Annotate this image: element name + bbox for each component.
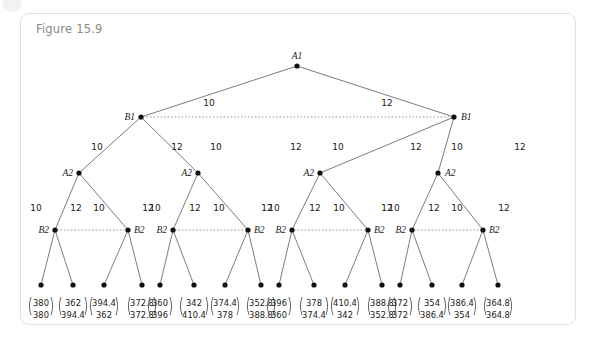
node-label-b2-5: B2 [275,225,286,235]
node-label-b2-1: B2 [38,225,49,235]
leaf-value-top: 410.4 [333,298,357,308]
edge-label-lvl1-right: 12 [381,98,392,108]
node-label-b2-6: B2 [374,225,385,235]
leaf-value-top: 386.4 [450,298,474,308]
edge-b2-6-leaf-11 [345,230,368,285]
leaf-dot-15[interactable] [459,282,464,287]
node-label-b2-2: B2 [134,225,145,235]
node-b2-3-dot[interactable] [170,227,175,232]
node-a2-2-dot[interactable] [195,170,200,175]
leaf-value-top: 342 [186,298,202,308]
decorative-corner-circle [2,0,22,12]
leaf-value-bottom: 352.8 [370,310,394,320]
leaf-value-top: 352.8 [249,298,273,308]
leaf-dot-3[interactable] [101,282,106,287]
leaf-dot-16[interactable] [495,282,500,287]
edge-label-lvl2-2l: 10 [210,142,222,152]
edge-label-lvl3-8r: 12 [498,203,509,213]
edge-label-lvl3-1l: 10 [30,203,42,213]
edge-b2-3-leaf-5 [160,230,173,285]
node-a2-3-dot[interactable] [317,170,322,175]
edges-level-4 [41,230,498,285]
edges-level-2 [79,117,454,173]
leaf-value-vector: 354386.4 [418,297,445,320]
node-label-b1-left: B1 [124,112,135,122]
decision-tree-diagram: 10 12 10 12 10 12 10 12 10 12 10 12 10 1… [20,13,576,325]
edge-label-lvl2-1l: 10 [91,142,103,152]
edge-b2-8-leaf-15 [462,230,483,285]
node-a2-1-dot[interactable] [76,170,81,175]
vector-bracket-right [474,297,476,315]
node-a1-dot[interactable] [294,63,299,68]
edge-labels: 10 12 10 12 10 12 10 12 10 12 10 12 10 1… [30,98,525,213]
leaf-value-top: 378 [306,298,322,308]
edge-b1left-a2-2 [141,117,198,173]
leaf-dot-6[interactable] [191,282,196,287]
leaf-dot-4[interactable] [139,282,144,287]
node-b2-7-dot[interactable] [409,227,414,232]
edge-b1left-a2-1 [79,117,141,173]
node-b2-6-dot[interactable] [365,227,370,232]
leaf-dot-5[interactable] [157,282,162,287]
leaf-value-bottom: 360 [271,310,287,320]
leaf-value-bottom: 396 [152,310,168,320]
vector-bracket-right [326,297,328,315]
node-label-b2-3: B2 [156,225,167,235]
edge-b2-1-leaf-2 [55,230,73,285]
edge-a2-3-b2-5 [292,173,320,230]
edge-a2-4-b2-7 [412,173,438,230]
figure-container: Figure 15.9 [0,0,601,341]
leaf-dot-9[interactable] [276,282,281,287]
leaf-value-bottom: 372.8 [130,310,154,320]
edge-label-lvl2-4l: 10 [451,142,463,152]
leaf-value-bottom: 388.8 [249,310,273,320]
vector-bracket-right [116,297,118,315]
leaf-value-bottom: 410.4 [182,310,206,320]
node-label-a2-2: A2 [180,168,192,178]
node-b1-left-dot[interactable] [138,114,143,119]
node-b2-5-dot[interactable] [289,227,294,232]
node-b2-4-dot[interactable] [245,227,250,232]
leaf-value-bottom: 374.4 [302,310,326,320]
node-b1-right-dot[interactable] [451,114,456,119]
leaf-dot-13[interactable] [397,282,402,287]
edge-label-lvl3-8l: 10 [451,203,463,213]
node-a2-4-dot[interactable] [435,170,440,175]
node-b2-1-dot[interactable] [52,227,57,232]
vector-bracket-right [510,297,512,315]
edge-label-lvl3-4l: 10 [213,203,225,213]
edge-b2-2-leaf-4 [128,230,142,285]
node-b2-2-dot[interactable] [125,227,130,232]
vector-bracket-right [357,297,359,315]
vector-bracket-right [51,297,53,315]
edge-b2-5-leaf-9 [279,230,292,285]
edge-label-lvl1-left: 10 [203,98,215,108]
leaf-value-vector: 372372 [388,297,411,320]
node-label-a2-3: A2 [302,168,314,178]
edge-b2-7-leaf-13 [400,230,412,285]
node-label-b2-7: B2 [395,225,406,235]
leaf-dot-8[interactable] [258,282,263,287]
edge-label-lvl2-4r: 12 [514,142,525,152]
leaf-value-top: 380 [33,298,49,308]
leaf-dot-10[interactable] [311,282,316,287]
edge-label-lvl3-7r: 12 [428,203,439,213]
leaf-node-dots [38,282,500,287]
leaf-value-vector: 410.4342 [331,297,358,320]
leaf-dot-12[interactable] [379,282,384,287]
leaf-dot-14[interactable] [429,282,434,287]
leaf-value-vector: 378374.4 [300,297,327,320]
edges-level-3 [55,173,483,230]
leaf-value-top: 374.4 [213,298,237,308]
leaf-value-vector: 342410.4 [180,297,207,320]
leaf-dot-7[interactable] [222,282,227,287]
edge-label-lvl3-2l: 10 [93,203,105,213]
node-b2-8-dot[interactable] [480,227,485,232]
vector-bracket-right [237,297,239,315]
leaf-dot-1[interactable] [38,282,43,287]
leaf-dot-11[interactable] [342,282,347,287]
leaf-value-bottom: 342 [337,310,353,320]
edge-label-lvl3-3l: 10 [149,203,161,213]
leaf-value-bottom: 354 [454,310,470,320]
leaf-dot-2[interactable] [70,282,75,287]
